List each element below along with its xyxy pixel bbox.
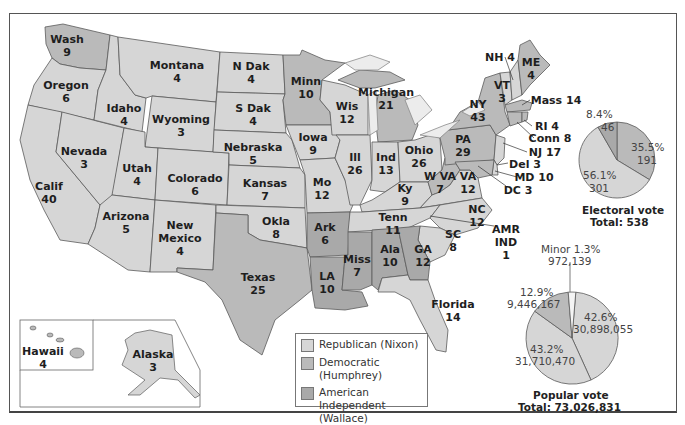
label-mo: Mo12 xyxy=(313,176,332,202)
label-conn: Conn 8 xyxy=(529,132,572,145)
label-montana: Montana4 xyxy=(150,59,204,85)
label-calif: Calif40 xyxy=(35,180,63,206)
label-nh: NH 4 xyxy=(485,51,515,64)
label-vt: VT3 xyxy=(494,79,510,105)
popular-minor-value: 972,139 xyxy=(548,255,591,267)
label-nebraska: Nebraska5 xyxy=(224,141,283,167)
popular-rep-pct: 43.2% xyxy=(530,343,563,355)
popular-total: Total: 73,026,831 xyxy=(518,401,621,413)
label-michigan: Michigan21 xyxy=(358,86,414,112)
state-nj xyxy=(494,135,505,165)
label-sdak: S Dak4 xyxy=(235,102,271,128)
legend: Republican (Nixon) Democratic (Humphrey)… xyxy=(295,333,428,407)
label-idaho: Idaho4 xyxy=(107,102,142,128)
electoral-dem-value: 191 xyxy=(637,154,657,166)
label-newmexico: NewMexico4 xyxy=(158,219,201,258)
label-alaska: Alaska3 xyxy=(133,348,174,374)
label-ill: Ill26 xyxy=(347,151,362,177)
label-nc: NC12 xyxy=(468,203,485,229)
popular-rep-value: 31,710,470 xyxy=(515,355,575,367)
electoral-rep-pct: 56.1% xyxy=(583,169,616,181)
democratic-swatch xyxy=(301,357,314,370)
label-pa: PA29 xyxy=(455,133,471,159)
legend-item-democratic: Democratic (Humphrey) xyxy=(301,356,422,382)
popular-ai-value: 9,446,167 xyxy=(507,298,560,310)
label-nevada: Nevada3 xyxy=(61,145,108,171)
label-ind: Ind13 xyxy=(376,151,396,177)
label-wva: W VA7 xyxy=(424,170,456,196)
label-wis: Wis12 xyxy=(336,100,358,126)
legend-item-republican: Republican (Nixon) xyxy=(301,338,422,352)
label-va: VA12 xyxy=(460,170,476,196)
label-minn: Minn10 xyxy=(291,75,321,101)
republican-swatch xyxy=(301,339,314,352)
label-arizona: Arizona5 xyxy=(103,210,150,236)
american-independent-swatch xyxy=(301,387,314,400)
label-colorado: Colorado6 xyxy=(167,172,222,198)
state-conn xyxy=(507,112,522,126)
label-la: LA10 xyxy=(319,270,335,296)
label-me: ME4 xyxy=(522,56,540,82)
label-del: Del 3 xyxy=(509,158,541,171)
label-miss: Miss7 xyxy=(343,253,371,279)
popular-dem-value: 30,898,055 xyxy=(573,323,633,335)
label-ala: Ala10 xyxy=(380,243,400,269)
label-md: MD 10 xyxy=(514,171,553,184)
label-iowa: Iowa9 xyxy=(298,131,327,157)
legend-item-american-independent: American Independent (Wallace) xyxy=(301,386,422,425)
electoral-rep-value: 301 xyxy=(589,182,609,194)
popular-ai-pct: 12.9% xyxy=(520,286,553,298)
electoral-caption: Electoral vote xyxy=(582,204,664,216)
label-florida: Florida14 xyxy=(431,298,474,324)
label-ga: GA12 xyxy=(414,243,432,269)
label-hawaii: Hawaii4 xyxy=(22,345,64,371)
label-wash: Wash9 xyxy=(50,33,84,59)
label-ny: NY43 xyxy=(469,98,486,124)
electoral-ai-value: 46 xyxy=(601,121,614,133)
label-tenn: Tenn11 xyxy=(378,211,407,237)
label-ohio: Ohio26 xyxy=(405,144,434,170)
electoral-ai-pct: 8.4% xyxy=(586,108,613,120)
label-dc: DC 3 xyxy=(504,184,533,197)
popular-dem-pct: 42.6% xyxy=(584,311,617,323)
electoral-total: Total: 538 xyxy=(590,216,648,228)
electoral-dem-pct: 35.5% xyxy=(631,141,664,153)
label-oregon: Oregon6 xyxy=(43,79,89,105)
label-ndak: N Dak4 xyxy=(233,60,270,86)
popular-caption: Popular vote xyxy=(533,389,609,401)
label-texas: Texas25 xyxy=(241,271,276,297)
label-utah: Utah4 xyxy=(122,162,151,188)
label-okla: Okla8 xyxy=(262,215,290,241)
label-ky: Ky9 xyxy=(398,182,413,208)
label-kansas: Kansas7 xyxy=(243,177,287,203)
label-ark: Ark6 xyxy=(314,221,335,247)
popular-minor-pct: Minor 1.3% xyxy=(541,243,600,255)
label-sc: SC8 xyxy=(445,228,461,254)
label-amrind: AMRIND1 xyxy=(492,223,520,262)
label-wyoming: Wyoming3 xyxy=(152,113,210,139)
label-mass: Mass 14 xyxy=(531,94,582,107)
